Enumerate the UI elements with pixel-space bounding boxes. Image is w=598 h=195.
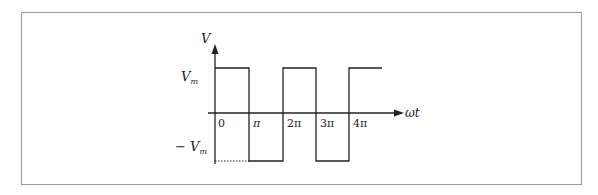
y-axis-arrow-icon xyxy=(212,44,219,54)
x-axis-label: ωt xyxy=(405,106,420,120)
x-axis-arrow-icon xyxy=(394,110,404,117)
tick-label-0: 0 xyxy=(218,117,225,130)
tick-label-4pi: 4π xyxy=(353,117,367,130)
low-level-label: − Vm xyxy=(175,139,207,156)
high-level-label: Vm xyxy=(181,69,198,86)
square-waveform xyxy=(215,68,382,161)
tick-label-2pi: 2π xyxy=(287,117,301,130)
y-axis-label: V xyxy=(201,31,212,46)
square-wave-diagram: V ωt Vm − Vm 0 π 2π 3π 4π xyxy=(0,0,598,195)
tick-label-pi: π xyxy=(252,117,261,130)
tick-label-3pi: 3π xyxy=(320,117,334,130)
